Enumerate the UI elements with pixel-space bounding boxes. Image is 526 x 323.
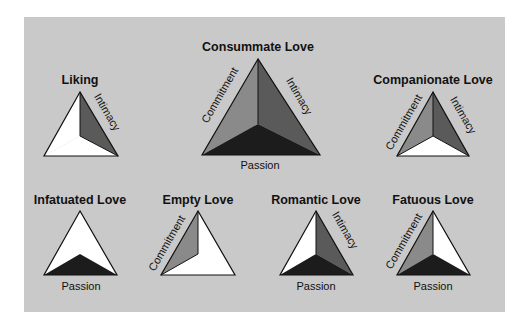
triangle-consummate: Consummate Love Commitment Intimacy Pass… — [199, 40, 320, 171]
triangle-romantic: Romantic Love Intimacy Passion — [271, 193, 361, 292]
triangle-liking: Liking Intimacy — [44, 73, 123, 156]
triangle-title: Romantic Love — [271, 193, 361, 207]
triangle-title: Fatuous Love — [392, 193, 473, 207]
triangle-infatuated: Infatuated Love Passion — [34, 193, 126, 292]
passion-label: Passion — [413, 280, 452, 292]
triangle-title: Empty Love — [163, 193, 234, 207]
triangle-title: Consummate Love — [202, 40, 314, 54]
passion-label: Passion — [61, 280, 100, 292]
passion-label: Passion — [240, 159, 279, 171]
triangle-companionate: Companionate Love Commitment Intimacy — [373, 73, 493, 156]
triangle-title: Companionate Love — [373, 73, 493, 87]
triangle-empty: Empty Love Commitment — [146, 193, 235, 275]
triangle-title: Liking — [62, 73, 99, 87]
triangle-title: Infatuated Love — [34, 193, 126, 207]
triangle-fatuous: Fatuous Love Commitment Passion — [383, 193, 474, 292]
passion-label: Passion — [296, 280, 335, 292]
love-triangles-diagram: Liking Intimacy Consummate Love Commitme… — [0, 0, 526, 323]
